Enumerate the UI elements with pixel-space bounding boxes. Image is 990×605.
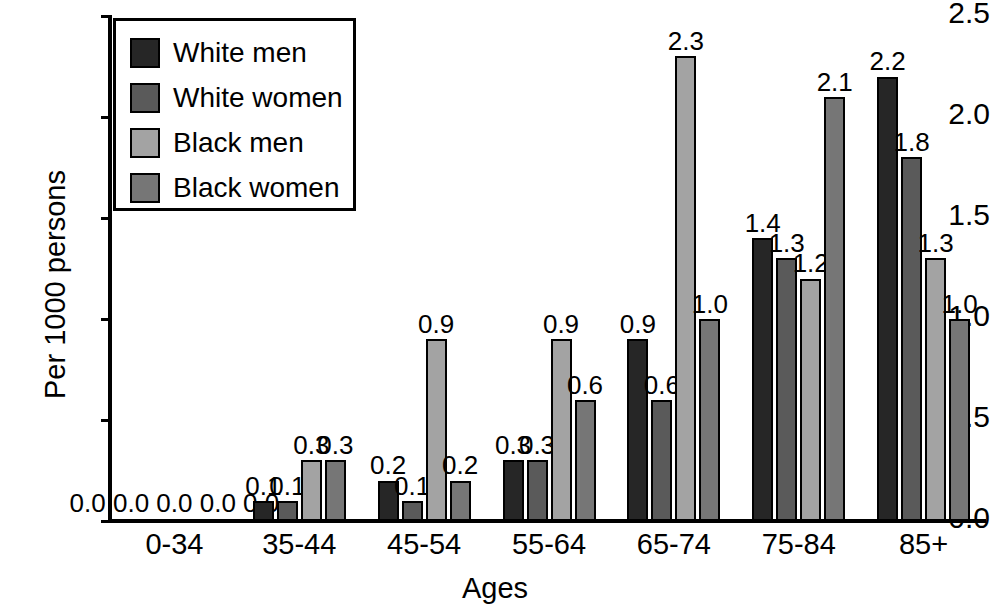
bar-group: 1.41.31.22.1 [736,16,861,521]
bar-slot: 2.1 [824,16,845,521]
legend-label: Black men [173,127,304,159]
x-axis-tick-label: 55-64 [487,528,612,561]
bar [503,460,524,521]
bar-value-label: 2.1 [817,69,853,96]
bar [776,258,797,521]
bar-slot: 0.6 [575,16,596,521]
bar [824,97,845,521]
bar [527,460,548,521]
bar [627,339,648,521]
bar-slot: 2.2 [877,16,898,521]
bar-slot: 0.9 [627,16,648,521]
bar-slot: 0.1 [402,16,423,521]
legend-item: White men [130,30,353,75]
bar [325,460,346,521]
bar [901,157,922,521]
bar-slot: 1.0 [949,16,970,521]
bar [949,319,970,521]
legend-item: Black women [130,165,353,210]
legend-swatch [130,128,160,158]
y-axis-tick [101,217,112,220]
legend-label: White women [173,82,343,114]
y-axis-tick [101,116,112,119]
x-axis-tick-labels: 0-3435-4445-5455-6465-7475-8485+ [112,528,986,561]
bar-value-label: 0.3 [317,432,353,459]
bar-chart: Per 1000 persons 2.52.01.51.00.50.0 0.0 … [0,0,990,605]
bar [699,319,720,521]
bar-slot: 0.3 [527,16,548,521]
x-axis-tick-label: 75-84 [736,528,861,561]
bar-slot: 1.0 [699,16,720,521]
bar-slot: 0.2 [378,16,399,521]
legend-swatch [130,83,160,113]
x-axis-tick-label: 45-54 [362,528,487,561]
legend-item: White women [130,75,353,120]
bar-group: 0.90.62.31.0 [611,16,736,521]
bar [575,400,596,521]
bar-slot: 2.3 [675,16,696,521]
legend: White menWhite womenBlack menBlack women [113,18,356,211]
bar-group: 0.30.30.90.6 [487,16,612,521]
legend-swatch [130,38,160,68]
bar-value-label: 0.6 [567,372,603,399]
bar-slot: 0.9 [551,16,572,521]
bar [402,501,423,521]
x-axis-title: Ages [0,572,990,605]
bar [752,238,773,521]
y-axis-title: Per 1000 persons [39,75,72,495]
bar [651,400,672,521]
bar [800,279,821,521]
bar-value-label: 1.0 [942,291,978,318]
y-axis-tick [101,419,112,422]
bar-slot: 0.9 [426,16,447,521]
bar [426,339,447,521]
bar [551,339,572,521]
bar-slot: 1.4 [752,16,773,521]
y-axis-tick [101,15,112,18]
bar [301,460,322,521]
bar-slot: 1.3 [925,16,946,521]
legend-label: Black women [173,172,340,204]
bar-slot: 1.8 [901,16,922,521]
legend-swatch [130,173,160,203]
x-axis-tick-label: 85+ [861,528,986,561]
bar-group: 0.20.10.90.2 [362,16,487,521]
x-axis-tick-label: 35-44 [237,528,362,561]
legend-label: White men [173,37,307,69]
x-axis-tick-label: 0-34 [112,528,237,561]
legend-item: Black men [130,120,353,165]
bar-slot: 0.6 [651,16,672,521]
bar [253,501,274,521]
y-axis-tick [101,318,112,321]
bar-group: 2.21.81.31.0 [861,16,986,521]
bar-slot: 0.2 [450,16,471,521]
x-axis-tick-label: 65-74 [611,528,736,561]
bar-value-label: 1.0 [692,291,728,318]
bar-value-label: 0.2 [442,452,478,479]
bar [450,481,471,521]
bar [277,501,298,521]
